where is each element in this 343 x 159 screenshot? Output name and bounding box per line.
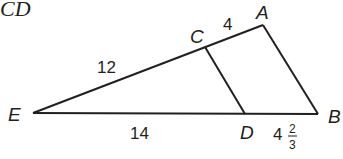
segment-eb [33,113,318,114]
length-db-whole: 4 [273,125,282,144]
length-ca: 4 [223,15,232,34]
question-title: CD [0,0,31,21]
point-b-label: B [328,106,341,127]
triangle-diagram: CD E C A B D 12 4 14 4 2 3 [0,0,343,159]
length-ec: 12 [97,58,116,77]
length-db-numerator: 2 [289,122,296,136]
length-db-denominator: 3 [289,138,296,152]
point-d-label: D [240,122,254,143]
point-c-label: C [190,26,204,47]
segment-ea [33,25,263,113]
point-e-label: E [8,104,21,125]
segment-cd [205,47,245,114]
segment-ab [263,25,318,114]
length-ed: 14 [130,124,149,143]
point-a-label: A [255,2,269,23]
length-db: 4 2 3 [273,122,297,152]
